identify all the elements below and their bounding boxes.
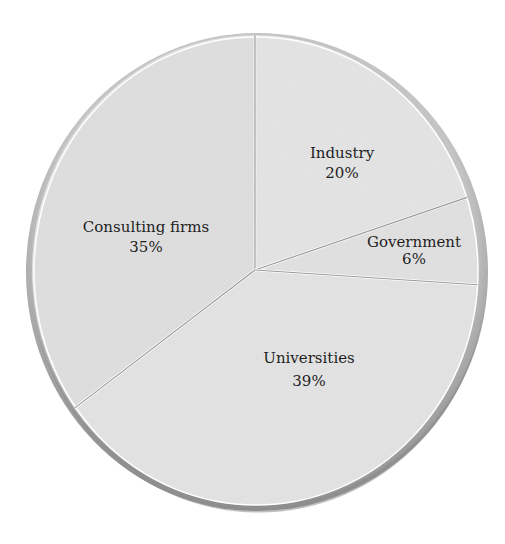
slice-label-consulting-name: Consulting firms [83, 218, 209, 236]
slice-label-industry-name: Industry [310, 144, 375, 162]
slice-label-universities-name: Universities [263, 349, 355, 367]
slice-label-government-pct: 6% [402, 250, 426, 268]
slice-label-government-name: Government [367, 233, 461, 251]
slice-label-consulting-pct: 35% [129, 238, 162, 256]
pie-chart: Industry 20% Government 6% Universities … [0, 0, 505, 544]
slice-label-universities-pct: 39% [292, 372, 325, 390]
slice-label-industry-pct: 20% [325, 164, 358, 182]
